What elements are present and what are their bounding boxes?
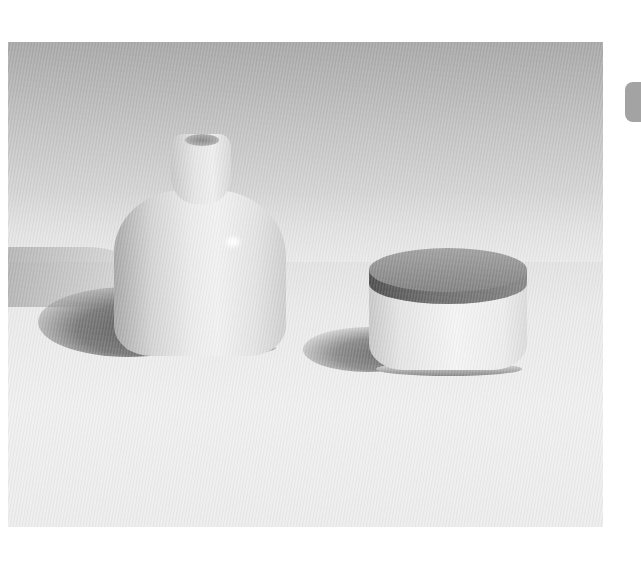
- vase-highlight: [226, 237, 240, 247]
- product-photo: [8, 42, 603, 527]
- jar-lid: [369, 248, 527, 292]
- vase-body: [114, 190, 286, 356]
- vase-mouth: [185, 134, 219, 146]
- side-panel-tab[interactable]: [625, 82, 641, 122]
